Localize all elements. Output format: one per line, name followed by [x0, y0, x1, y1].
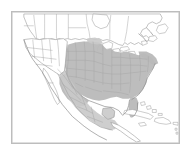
- range-map-figure: [0, 0, 193, 157]
- map-frame: [11, 11, 180, 144]
- north-america-range-map: [12, 12, 179, 143]
